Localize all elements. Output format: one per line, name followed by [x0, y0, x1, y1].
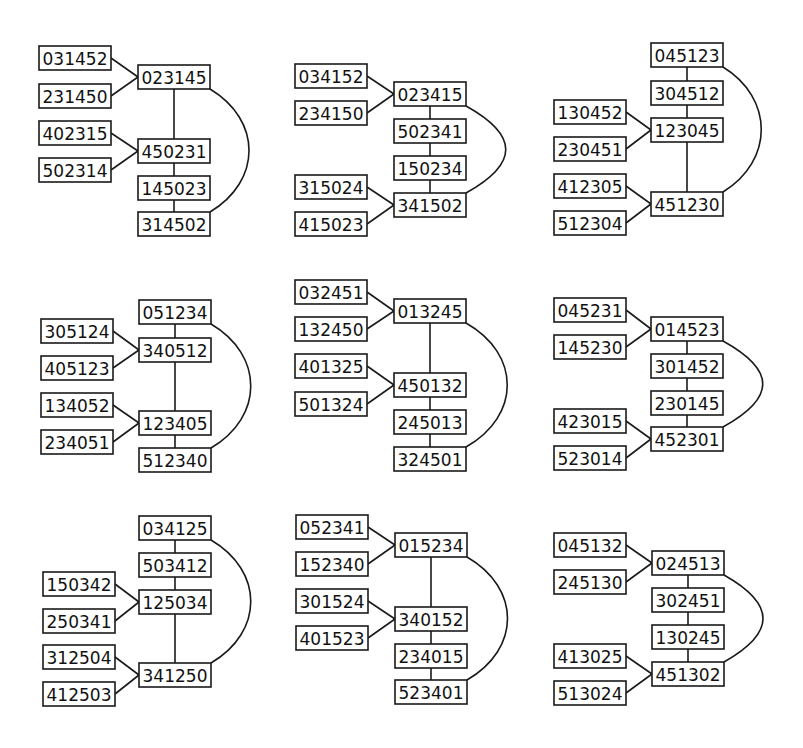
edge-234150-023415 — [367, 94, 394, 113]
node-label: 034152 — [299, 67, 364, 87]
node-box: 014523 — [651, 317, 723, 341]
node-label: 123045 — [655, 121, 720, 141]
node-label: 523014 — [558, 449, 623, 469]
node-label: 341502 — [398, 196, 463, 216]
edge-034152-023415 — [367, 76, 394, 94]
panel-3: 0451233045121304522304511230454123055123… — [554, 43, 761, 235]
node-label: 450132 — [398, 376, 463, 396]
node-label: 312504 — [47, 648, 112, 668]
node-label: 451230 — [655, 195, 720, 215]
panel-4: 0512343051244051233405121340522340511234… — [41, 300, 251, 472]
edge-315024-341502 — [367, 187, 394, 205]
node-label: 023415 — [398, 85, 463, 105]
node-box: 312504 — [43, 645, 115, 669]
edge-415023-341502 — [367, 205, 394, 224]
node-label: 150234 — [398, 159, 463, 179]
node-box: 450132 — [394, 373, 466, 397]
node-box: 234051 — [41, 430, 113, 454]
node-box: 341502 — [394, 193, 466, 217]
node-box: 045123 — [651, 43, 723, 67]
node-box: 045231 — [554, 298, 626, 322]
node-label: 301452 — [655, 357, 720, 377]
arc-023145-314502 — [210, 89, 249, 212]
edge-231450-023145 — [111, 77, 138, 96]
edge-412503-341250 — [115, 675, 139, 694]
node-label: 450231 — [142, 142, 207, 162]
node-label: 230451 — [558, 140, 623, 160]
node-box: 150234 — [394, 156, 466, 180]
node-label: 013245 — [398, 302, 463, 322]
node-box: 023145 — [138, 65, 210, 89]
node-label: 031452 — [43, 49, 108, 69]
node-label: 014523 — [655, 320, 720, 340]
node-box: 234015 — [395, 644, 467, 668]
node-label: 234051 — [45, 433, 110, 453]
node-label: 230145 — [655, 394, 720, 414]
node-box: 405123 — [41, 356, 113, 380]
node-label: 132450 — [299, 320, 364, 340]
edge-132450-013245 — [367, 311, 394, 329]
node-label: 341250 — [143, 666, 208, 686]
panel-1: 0314522314500231454023155023144502311450… — [39, 46, 249, 236]
node-box: 452301 — [651, 427, 723, 451]
node-label: 152340 — [300, 555, 365, 575]
arc-013245-324501 — [466, 323, 507, 447]
nodes: 0452311452300145233014522301454230155230… — [554, 298, 723, 470]
panel-2: 0341522341500234155023411502343150244150… — [295, 64, 506, 236]
edge-512304-451230 — [626, 204, 651, 223]
node-label: 402315 — [43, 124, 108, 144]
node-label: 502314 — [43, 161, 108, 181]
edge-045231-014523 — [626, 310, 651, 329]
node-label: 512340 — [143, 451, 208, 471]
node-label: 503412 — [143, 556, 208, 576]
node-box: 031452 — [39, 46, 111, 70]
node-box: 304512 — [651, 81, 723, 105]
node-box: 051234 — [139, 300, 211, 324]
node-label: 245130 — [558, 573, 623, 593]
node-label: 234150 — [299, 104, 364, 124]
node-label: 301524 — [300, 592, 365, 612]
node-box: 024513 — [652, 551, 724, 575]
node-label: 234015 — [399, 647, 464, 667]
panel-7: 0341255034121503422503411250343125044125… — [43, 516, 251, 706]
node-label: 324501 — [398, 450, 463, 470]
edge-234051-123405 — [113, 423, 139, 442]
node-box: 402315 — [39, 121, 111, 145]
arc-014523-452301 — [723, 341, 763, 427]
nodes: 0451322451300245133024511302454130255130… — [554, 533, 724, 705]
node-label: 045132 — [558, 536, 623, 556]
node-box: 315024 — [295, 175, 367, 199]
node-box: 340512 — [139, 338, 211, 362]
node-label: 412305 — [558, 177, 623, 197]
panel-8: 0523411523400152343015244015233401522340… — [296, 515, 508, 704]
node-box: 032451 — [295, 280, 367, 304]
node-box: 125034 — [139, 590, 211, 614]
edge-150342-125034 — [115, 584, 139, 602]
node-label: 134052 — [45, 396, 110, 416]
node-box: 302451 — [652, 588, 724, 612]
node-box: 152340 — [296, 552, 368, 576]
edge-045132-024513 — [626, 545, 652, 563]
node-box: 305124 — [41, 319, 113, 343]
node-label: 315024 — [299, 178, 364, 198]
node-box: 523014 — [554, 446, 626, 470]
arc-051234-512340 — [211, 324, 251, 448]
node-box: 045132 — [554, 533, 626, 557]
node-box: 034152 — [295, 64, 367, 88]
node-label: 501324 — [299, 395, 364, 415]
node-box: 341250 — [139, 663, 211, 687]
node-label: 045123 — [655, 46, 720, 66]
node-label: 401325 — [299, 357, 364, 377]
node-label: 452301 — [655, 430, 720, 450]
permutation-graph-diagram: 0314522314500231454023155023144502311450… — [0, 0, 803, 748]
node-label: 413025 — [558, 647, 623, 667]
node-label: 523401 — [399, 683, 464, 703]
node-label: 015234 — [399, 536, 464, 556]
node-box: 512304 — [554, 211, 626, 235]
node-label: 023145 — [142, 68, 207, 88]
node-box: 451230 — [651, 192, 723, 216]
node-label: 052341 — [300, 518, 365, 538]
edge-412305-451230 — [626, 186, 651, 204]
nodes: 0512343051244051233405121340522340511234… — [41, 300, 211, 472]
node-box: 450231 — [138, 139, 210, 163]
